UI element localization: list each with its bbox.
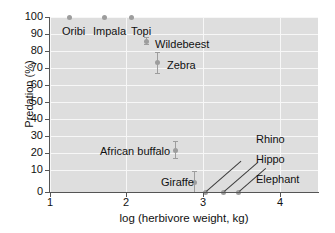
gridline-x-2 — [126, 17, 127, 192]
y-tick-10 — [45, 170, 49, 171]
leader-line-rhino — [206, 161, 241, 192]
errorcap-zebra-top — [155, 52, 160, 53]
y-axis-title: Predation (%) — [23, 14, 35, 174]
y-tick-90 — [45, 34, 49, 35]
y-tick-30 — [45, 136, 49, 137]
gridline-y-50 — [50, 102, 318, 103]
y-axis-line — [49, 17, 50, 193]
y-tick-80 — [45, 51, 49, 52]
data-point-african-buffalo — [173, 148, 178, 153]
y-tick-50 — [45, 102, 49, 103]
x-axis-title: log (herbivore weight, kg) — [50, 212, 318, 225]
data-point-wildebeest — [144, 39, 149, 44]
y-tick-70 — [45, 68, 49, 69]
point-label-oribi: Oribi — [62, 25, 85, 37]
errorcap-african-buffalo-top — [173, 141, 178, 142]
predation-scatter-chart: Oribi Impala Topi Wildebeest Zebra Afric… — [0, 0, 335, 233]
gridline-y-100 — [50, 17, 318, 18]
x-ticklabel-3: 3 — [191, 197, 215, 208]
y-tick-40 — [45, 119, 49, 120]
errorcap-giraffe-top — [192, 171, 197, 172]
errorcap-zebra-bottom — [155, 73, 160, 74]
x-ticklabel-4: 4 — [268, 197, 292, 208]
point-label-zebra: Zebra — [167, 59, 196, 71]
errorcap-wildebeest-top — [144, 37, 149, 38]
data-point-oribi — [67, 15, 72, 20]
leader-line-hippo — [224, 162, 258, 192]
point-label-topi: Topi — [131, 25, 151, 37]
data-point-zebra — [155, 60, 160, 65]
errorcap-wildebeest-bottom — [144, 44, 149, 45]
gridline-x-1 — [50, 17, 51, 192]
point-label-elephant: Elephant — [256, 173, 299, 185]
data-point-impala — [102, 15, 107, 20]
y-tick-100 — [45, 17, 49, 18]
x-ticklabel-1: 1 — [38, 197, 62, 208]
point-label-african-buffalo: African buffalo — [100, 145, 170, 157]
point-label-giraffe: Giraffe — [161, 176, 194, 188]
y-tick-20 — [45, 153, 49, 154]
gridline-y-80 — [50, 51, 318, 52]
point-label-impala: Impala — [93, 25, 126, 37]
y-tick-60 — [45, 85, 49, 86]
point-label-rhino: Rhino — [256, 133, 285, 145]
gridline-y-10 — [50, 170, 318, 171]
point-label-wildebeest: Wildebeest — [155, 38, 209, 50]
gridline-y-90 — [50, 34, 318, 35]
data-point-topi — [129, 15, 134, 20]
x-axis-line — [49, 192, 319, 193]
gridline-x-4 — [280, 17, 281, 192]
gridline-y-40 — [50, 119, 318, 120]
gridline-y-60 — [50, 85, 318, 86]
y-tick-0 — [45, 192, 49, 193]
x-ticklabel-2: 2 — [114, 197, 138, 208]
point-label-hippo: Hippo — [256, 153, 285, 165]
errorcap-african-buffalo-bottom — [173, 158, 178, 159]
y-ticklabel-0: 0 — [37, 186, 43, 197]
